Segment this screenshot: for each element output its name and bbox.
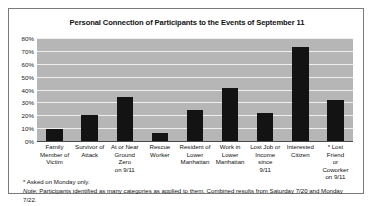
x-axis-category-label: FamilyMember ofVictim [37,143,72,181]
y-axis-tick-label: 70% [22,47,34,54]
x-axis-category-label-line: Income since [249,151,282,166]
x-axis-category-label-line: 9/11 [249,166,282,174]
x-axis-category-label: Lost Job orIncome since9/11 [248,143,283,181]
bar-slot [213,38,248,141]
x-axis-category-label-line: Rescue [143,143,176,151]
x-axis-category-label-line: Attack [73,151,106,159]
x-axis-category-label: InterestedCitizen [283,143,318,181]
footnotes: * Asked on Monday only. Note: Participan… [23,177,353,204]
x-axis-category-label: Resident ofLowerManhattan [177,143,212,181]
bar-series [37,38,353,141]
bar[interactable] [46,129,63,141]
chart-title: Personal Connection of Participants to t… [9,18,365,27]
bar[interactable] [81,115,98,141]
bar-slot [72,38,107,141]
bar-slot [37,38,72,141]
y-axis-tick-label: 0% [25,138,34,145]
x-axis-category-label-line: Member of [38,151,71,159]
x-axis-category-label-line: Resident of [178,143,211,151]
x-axis-category-label-line: At or Near [108,143,141,151]
chart-figure: Personal Connection of Participants to t… [8,8,364,194]
footnote-note-body: Participants identified as many categori… [23,187,343,203]
y-axis-tick-label: 20% [22,112,34,119]
bar-slot [142,38,177,141]
bar[interactable] [292,47,309,141]
y-axis-tick-label: 10% [22,125,34,132]
x-axis-category-label-line: Survivor of [73,143,106,151]
bar-slot [107,38,142,141]
x-axis-category-label-line: Family [38,143,71,151]
bar[interactable] [117,97,134,141]
x-axis-category-label: * Lost Friendor Coworkeron 9/11 [318,143,353,181]
x-axis-category-label-line: Lower [214,151,247,159]
y-axis-tick-label: 40% [22,86,34,93]
x-axis-category-label: RescueWorker [142,143,177,181]
x-axis-category-label: Work inLowerManhattan [213,143,248,181]
footnote-note: Note: Participants identified as many ca… [23,186,353,204]
bar[interactable] [257,113,274,141]
x-axis-category-label-line: Victim [38,158,71,166]
x-axis-labels: FamilyMember ofVictimSurvivor ofAttackAt… [37,143,353,181]
x-axis-category-label-line: Lost Job or [249,143,282,151]
x-axis-category-label-line: * Lost Friend [319,143,352,158]
bar[interactable] [327,100,344,141]
y-axis-tick-label: 60% [22,60,34,67]
x-axis-category-label-line: Manhattan [214,158,247,166]
footnote-asterisk: * Asked on Monday only. [23,177,353,186]
y-axis-tick-label: 30% [22,99,34,106]
bar[interactable] [187,110,204,141]
x-axis-category-label-line: Ground Zero [108,151,141,166]
bar-slot [177,38,212,141]
bar-slot [283,38,318,141]
footnote-note-label: Note: [23,187,38,194]
y-axis-tick-label: 50% [22,73,34,80]
x-axis-category-label: At or NearGround Zeroon 9/11 [107,143,142,181]
bar-slot [318,38,353,141]
bar[interactable] [152,133,169,141]
plot-area: 0%10%20%30%40%50%60%70%80% [37,38,353,142]
y-axis-tick-label: 80% [22,35,34,42]
x-axis-category-label-line: Work in [214,143,247,151]
x-axis-category-label-line: or Coworker [319,158,352,173]
x-axis-category-label: Survivor ofAttack [72,143,107,181]
x-axis-category-label-line: Interested [284,143,317,151]
x-axis-category-label-line: Manhattan [178,158,211,166]
plot-wrapper: 0%10%20%30%40%50%60%70%80% [37,38,353,142]
bar-slot [248,38,283,141]
x-axis-category-label-line: Worker [143,151,176,159]
bar[interactable] [222,88,239,141]
x-axis-category-label-line: Lower [178,151,211,159]
x-axis-category-label-line: on 9/11 [108,166,141,174]
x-axis-category-label-line: Citizen [284,151,317,159]
